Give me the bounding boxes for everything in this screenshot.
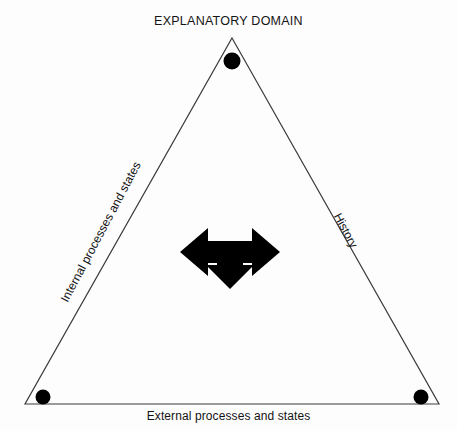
triangle-diagram-svg bbox=[0, 0, 457, 431]
edge-label-base: External processes and states bbox=[0, 409, 457, 423]
triangle-outline bbox=[25, 38, 439, 404]
page-title: EXPLANATORY DOMAIN bbox=[0, 14, 457, 28]
vertex-marker-bottom-left bbox=[36, 390, 51, 405]
three-way-arrow-icon bbox=[180, 228, 280, 289]
vertex-marker-bottom-right bbox=[414, 390, 429, 405]
diagram-canvas: EXPLANATORY DOMAIN External processes an… bbox=[0, 0, 457, 431]
vertex-marker-apex bbox=[224, 53, 241, 70]
